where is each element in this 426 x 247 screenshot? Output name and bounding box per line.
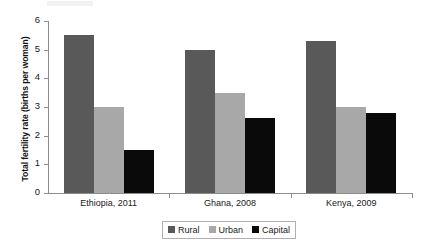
y-axis-tick bbox=[44, 136, 48, 137]
x-axis-category-label: Kenya, 2009 bbox=[291, 198, 412, 208]
legend-label: Rural bbox=[178, 225, 200, 235]
fertility-rate-bar-chart: Total fertility rate (births per woman) … bbox=[0, 0, 426, 247]
y-axis-tick-label: 6 bbox=[26, 14, 40, 25]
y-axis-tick bbox=[44, 21, 48, 22]
y-axis-tick-label: 0 bbox=[26, 186, 40, 197]
y-axis-tick bbox=[44, 50, 48, 51]
y-axis-tick-label: 4 bbox=[26, 71, 40, 82]
y-axis-line bbox=[48, 21, 49, 194]
y-axis-tick-label: 3 bbox=[26, 100, 40, 111]
legend-item-capital[interactable]: Capital bbox=[252, 225, 290, 235]
x-axis-category-label: Ethiopia, 2011 bbox=[48, 198, 169, 208]
legend-label: Capital bbox=[262, 225, 290, 235]
x-axis-category-label: Ghana, 2008 bbox=[169, 198, 290, 208]
legend-item-rural[interactable]: Rural bbox=[168, 225, 200, 235]
y-axis-tick bbox=[44, 78, 48, 79]
page-artifact-smudge bbox=[47, 1, 93, 6]
bar-rural-2 bbox=[306, 41, 336, 193]
bar-capital-0 bbox=[124, 150, 154, 193]
bar-urban-2 bbox=[336, 107, 366, 193]
y-axis-tick-label: 5 bbox=[26, 43, 40, 54]
y-axis-tick bbox=[44, 164, 48, 165]
bar-rural-0 bbox=[64, 35, 94, 193]
legend-swatch-rural-icon bbox=[168, 226, 175, 233]
bar-capital-1 bbox=[245, 118, 275, 193]
x-axis-tick bbox=[412, 193, 413, 198]
bar-urban-0 bbox=[94, 107, 124, 193]
chart-legend: RuralUrbanCapital bbox=[162, 221, 296, 239]
bar-capital-2 bbox=[366, 113, 396, 193]
legend-label: Urban bbox=[219, 225, 244, 235]
y-axis-tick bbox=[44, 107, 48, 108]
y-axis-tick-label: 2 bbox=[26, 129, 40, 140]
y-axis-tick-label: 1 bbox=[26, 157, 40, 168]
bar-urban-1 bbox=[215, 93, 245, 193]
plot-area: 0123456 bbox=[48, 21, 412, 193]
x-axis-line bbox=[48, 193, 412, 194]
y-axis-tick bbox=[44, 193, 48, 194]
legend-swatch-capital-icon bbox=[252, 226, 259, 233]
legend-swatch-urban-icon bbox=[209, 226, 216, 233]
bar-rural-1 bbox=[185, 50, 215, 193]
legend-item-urban[interactable]: Urban bbox=[209, 225, 244, 235]
